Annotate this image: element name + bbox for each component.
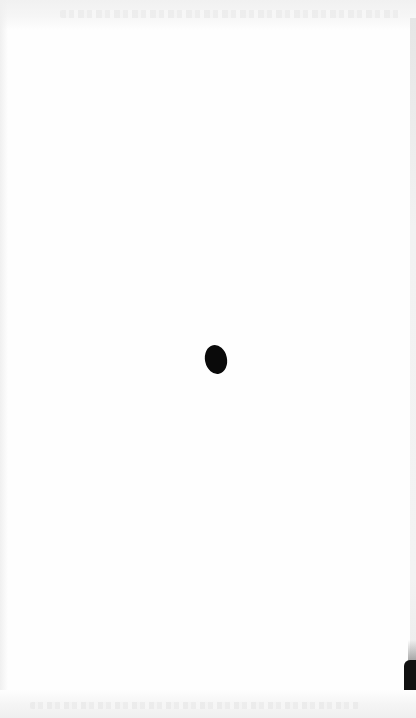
center-dot-mark (202, 343, 230, 376)
bottom-bleed-band (0, 690, 416, 718)
illegible-footer-text (30, 702, 360, 709)
top-bleed-band (0, 0, 416, 30)
scanned-page (0, 0, 416, 718)
illegible-header-text (60, 10, 400, 18)
left-edge-shadow (0, 0, 8, 718)
right-page-edge (410, 18, 416, 718)
